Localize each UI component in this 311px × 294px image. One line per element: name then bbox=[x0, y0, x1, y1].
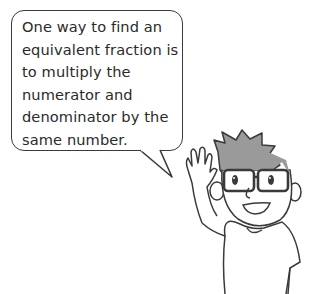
speech-line: denominator by the bbox=[22, 106, 182, 129]
speech-line: numerator and bbox=[22, 84, 182, 107]
glasses-left-lens bbox=[224, 170, 254, 191]
speech-line: One way to find an bbox=[22, 16, 182, 39]
speech-bubble-tail bbox=[140, 150, 172, 177]
left-eye bbox=[232, 175, 238, 185]
speech-line: to multiply the bbox=[22, 61, 182, 84]
speech-line: equivalent fraction is bbox=[22, 39, 182, 62]
speech-bubble-text: One way to find an equivalent fraction i… bbox=[22, 16, 182, 151]
speech-line: same number. bbox=[22, 129, 182, 152]
right-eye bbox=[268, 175, 274, 185]
